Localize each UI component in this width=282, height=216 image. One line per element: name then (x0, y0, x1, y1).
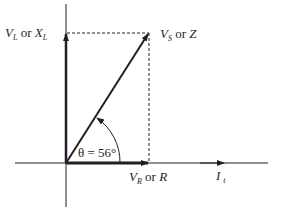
angle-label: θ = 56° (78, 145, 116, 160)
vl-label: VL or XL (5, 25, 48, 42)
vs-label: VS or Z (160, 26, 197, 43)
vr-label: VR or R (129, 169, 167, 186)
vs-vector (66, 34, 148, 163)
current-label: It (215, 168, 226, 185)
phasor-diagram: θ = 56° VL or XL VS or Z VR or R It (0, 0, 282, 216)
